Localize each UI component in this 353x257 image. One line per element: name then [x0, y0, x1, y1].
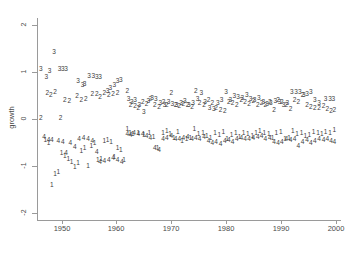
- data-point-marker-1: 1: [75, 160, 81, 167]
- data-point-marker-2: 2: [288, 106, 294, 113]
- data-point-marker-3: 3: [330, 96, 336, 103]
- y-axis-title: growth: [7, 98, 16, 138]
- data-point-marker-3: 3: [63, 66, 69, 73]
- data-point-marker-4: 4: [119, 159, 125, 166]
- x-tick-label: 1980: [211, 224, 241, 233]
- data-point-marker-1: 1: [49, 182, 55, 189]
- data-point-marker-4: 4: [331, 139, 337, 146]
- data-point-marker-2: 2: [331, 107, 337, 114]
- data-point-marker-3: 3: [308, 89, 314, 96]
- data-point-marker-3: 3: [284, 100, 290, 107]
- data-point-marker-2: 2: [295, 99, 301, 106]
- data-point-marker-3: 3: [223, 89, 229, 96]
- y-tick-mark: [32, 25, 37, 26]
- data-point-marker-1: 1: [82, 145, 88, 152]
- data-point-marker-3: 3: [141, 109, 147, 116]
- data-point-marker-1: 1: [85, 163, 91, 170]
- data-point-marker-4: 4: [94, 149, 100, 156]
- data-point-marker-1: 1: [108, 139, 114, 146]
- data-point-marker-3: 3: [194, 96, 200, 103]
- y-tick-mark: [32, 213, 37, 214]
- y-tick-label: 1: [20, 65, 27, 79]
- data-point-marker-3: 3: [97, 74, 103, 81]
- data-point-marker-3: 3: [38, 66, 44, 73]
- data-point-marker-1: 1: [278, 129, 284, 136]
- data-point-marker-3: 3: [219, 97, 225, 104]
- y-tick-label: -2: [20, 206, 27, 220]
- data-point-marker-2: 2: [38, 115, 44, 122]
- x-tick-label: 1950: [47, 224, 77, 233]
- scatter-plot: growth 210-1-2 195019601970198019902000 …: [0, 0, 353, 257]
- data-point-marker-3: 3: [51, 49, 57, 56]
- data-point-marker-4: 4: [49, 137, 55, 144]
- data-point-marker-3: 3: [47, 68, 53, 75]
- data-point-marker-2: 2: [271, 107, 277, 114]
- data-point-marker-4: 4: [63, 150, 69, 157]
- data-point-marker-4: 4: [60, 139, 66, 146]
- data-point-marker-2: 2: [168, 90, 174, 97]
- data-point-marker-1: 1: [331, 127, 337, 134]
- y-tick-mark: [32, 72, 37, 73]
- y-tick-label: 0: [20, 112, 27, 126]
- data-point-marker-3: 3: [136, 102, 142, 109]
- data-point-marker-2: 2: [66, 98, 72, 105]
- x-axis-line: [37, 220, 341, 221]
- y-tick-label: 2: [20, 18, 27, 32]
- x-tick-label: 1990: [266, 224, 296, 233]
- data-point-marker-2: 2: [222, 108, 228, 115]
- data-point-marker-3: 3: [43, 74, 49, 81]
- data-point-marker-3: 3: [211, 106, 217, 113]
- data-point-marker-3: 3: [198, 90, 204, 97]
- y-tick-mark: [32, 119, 37, 120]
- x-tick-label: 1960: [101, 224, 131, 233]
- x-tick-label: 2000: [321, 224, 351, 233]
- x-tick-label: 1970: [156, 224, 186, 233]
- data-point-marker-2: 2: [83, 96, 89, 103]
- data-point-marker-3: 3: [82, 81, 88, 88]
- y-tick-label: -1: [20, 159, 27, 173]
- data-point-marker-2: 2: [115, 90, 121, 97]
- data-point-marker-2: 2: [124, 88, 130, 95]
- data-point-marker-2: 2: [58, 115, 64, 122]
- data-point-marker-1: 1: [55, 169, 61, 176]
- data-point-marker-3: 3: [118, 77, 124, 84]
- data-point-marker-2: 2: [52, 89, 58, 96]
- data-point-marker-4: 4: [89, 138, 95, 145]
- data-point-marker-4: 4: [72, 144, 78, 151]
- data-point-marker-1: 1: [118, 147, 124, 154]
- y-tick-mark: [32, 166, 37, 167]
- data-point-marker-3: 3: [316, 100, 322, 107]
- data-point-marker-4: 4: [156, 147, 162, 154]
- data-point-marker-4: 4: [147, 135, 153, 142]
